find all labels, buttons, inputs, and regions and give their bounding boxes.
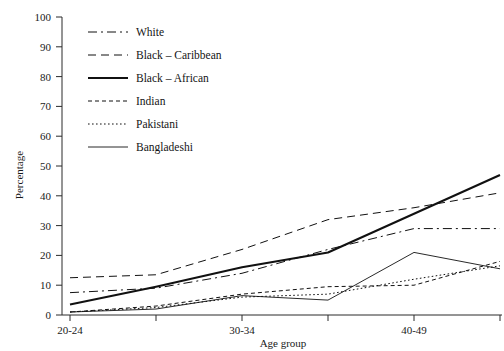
legend-item-pakistani[interactable]: Pakistani	[88, 118, 178, 130]
series-group	[70, 175, 500, 312]
y-tick-marks	[56, 17, 62, 315]
x-tick-label-40-49: 40-49	[401, 324, 427, 336]
y-tick-labels: 0 10 20 30 40 50 60 70 80 90 100	[35, 11, 52, 321]
y-tick-label-40: 40	[40, 190, 52, 202]
series-line-black-african	[70, 175, 500, 305]
y-tick-label-60: 60	[40, 130, 52, 142]
y-tick-label-90: 90	[40, 41, 52, 53]
chart-legend: WhiteBlack – CaribbeanBlack – AfricanInd…	[88, 26, 222, 154]
legend-item-white[interactable]: White	[88, 26, 164, 38]
series-line-black-caribbean	[70, 193, 500, 278]
y-tick-label-0: 0	[46, 309, 52, 321]
line-chart-svg: 0 10 20 30 40 50 60 70 80 90 100 20-24 3…	[0, 0, 504, 351]
legend-item-black-african[interactable]: Black – African	[88, 72, 209, 84]
legend-label: Indian	[136, 95, 166, 107]
y-tick-label-10: 10	[40, 279, 52, 291]
y-tick-label-80: 80	[40, 71, 52, 83]
y-tick-label-50: 50	[40, 160, 52, 172]
legend-label: Bangladeshi	[136, 141, 193, 154]
legend-label: White	[136, 26, 164, 38]
series-line-bangladeshi	[70, 252, 500, 312]
x-tick-marks	[70, 315, 500, 321]
legend-label: Black – Caribbean	[136, 49, 222, 61]
y-tick-label-20: 20	[40, 249, 52, 261]
y-tick-label-70: 70	[40, 100, 52, 112]
legend-item-black-caribbean[interactable]: Black – Caribbean	[88, 49, 222, 61]
legend-label: Pakistani	[136, 118, 178, 130]
y-tick-label-30: 30	[40, 220, 52, 232]
y-tick-label-100: 100	[35, 11, 52, 23]
x-tick-label-30-34: 30-34	[229, 324, 255, 336]
series-line-indian	[70, 261, 500, 312]
y-axis-title: Percentage	[13, 151, 25, 199]
x-tick-labels: 20-24 30-34 40-49	[57, 324, 427, 336]
chart-container: 0 10 20 30 40 50 60 70 80 90 100 20-24 3…	[0, 0, 504, 351]
legend-item-indian[interactable]: Indian	[88, 95, 166, 107]
legend-item-bangladeshi[interactable]: Bangladeshi	[88, 141, 193, 154]
x-tick-label-20-24: 20-24	[57, 324, 83, 336]
legend-label: Black – African	[136, 72, 209, 84]
x-axis-title: Age group	[260, 337, 307, 349]
